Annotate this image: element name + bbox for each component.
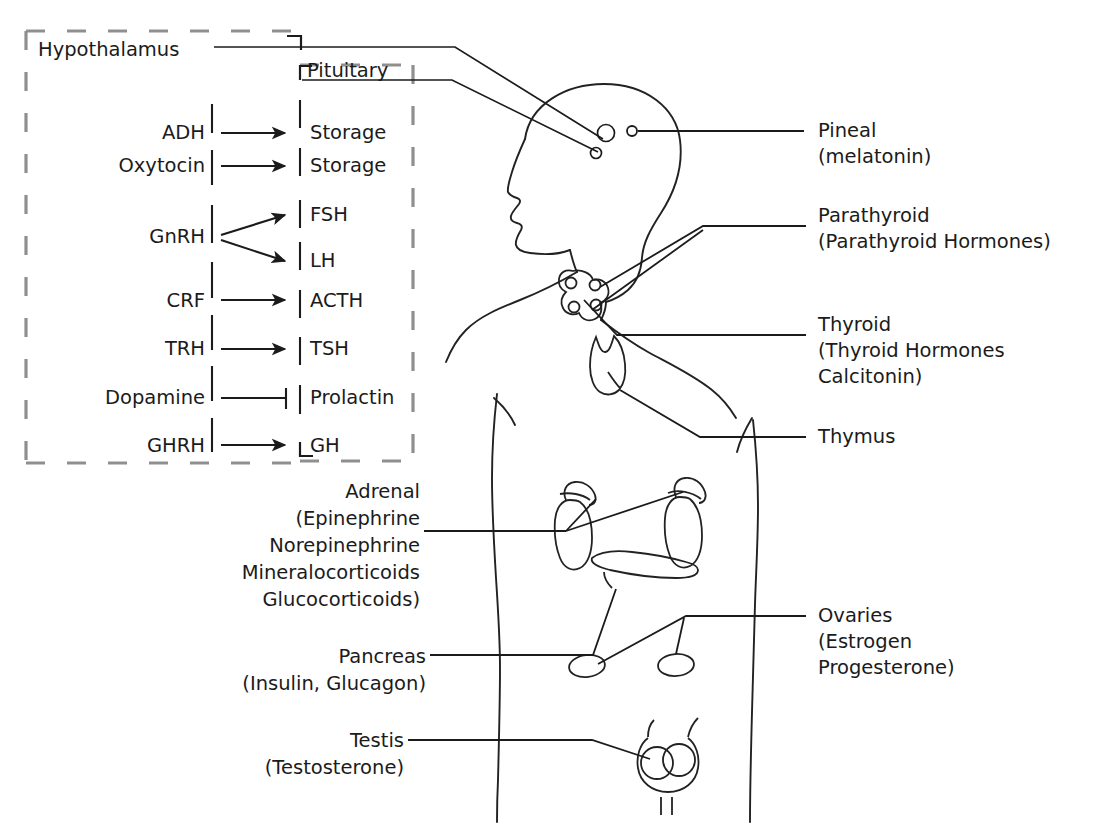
gland-label-adrenal: Adrenal [120, 479, 420, 505]
hormone-lh: LH [310, 248, 336, 274]
human-body-outline [446, 84, 758, 822]
gland-hormones-ovaries-line1: (Estrogen [818, 629, 912, 655]
leader-ovaries [598, 616, 806, 664]
arrow-gnrh-lh [221, 240, 285, 261]
gland-hormones-pineal: (melatonin) [818, 144, 931, 170]
hormone-acth: ACTH [310, 288, 363, 314]
thymus-gland [590, 336, 625, 394]
gland-label-testis: Testis [120, 728, 404, 754]
gland-hormones-adrenal-line4: Glucocorticoids) [120, 587, 420, 613]
pituitary-title: Pituitary [307, 58, 388, 84]
hypothalamus-title: Hypothalamus [38, 37, 179, 63]
hormone-gh: GH [310, 433, 340, 459]
gland-hormones-thyroid-line2: Calcitonin) [818, 364, 922, 390]
gland-hormones-adrenal-line1: (Epinephrine [120, 506, 420, 532]
endocrine-diagram-page: Hypothalamus Pituitary ADH Oxytocin GnRH… [0, 0, 1103, 825]
factor-crf: CRF [5, 288, 205, 314]
leader-thyroid [584, 300, 806, 335]
hormone-storage-adh: Storage [310, 120, 386, 146]
leader-adrenal [424, 492, 683, 531]
gland-label-thymus: Thymus [818, 424, 895, 450]
gland-label-pineal: Pineal [818, 118, 876, 144]
factor-oxytocin: Oxytocin [5, 153, 205, 179]
ovaries-glands [568, 653, 695, 679]
gland-hormones-adrenal-line3: Mineralocorticoids [120, 560, 420, 586]
hypothalamus-box-corners [287, 36, 301, 50]
gland-hormones-thyroid-line1: (Thyroid Hormones [818, 338, 1005, 364]
factor-adh: ADH [5, 120, 205, 146]
hormone-prolactin: Prolactin [310, 385, 394, 411]
kidneys-adrenals-pancreas [555, 478, 706, 588]
leader-parathyroid [592, 226, 806, 310]
factor-dopamine: Dopamine [5, 385, 205, 411]
gland-hormones-pancreas: (Insulin, Glucagon) [120, 671, 426, 697]
hormone-fsh: FSH [310, 202, 348, 228]
pathway-arrows [221, 133, 286, 445]
gland-hormones-ovaries-line2: Progesterone) [818, 655, 955, 681]
factor-gnrh: GnRH [5, 224, 205, 250]
leader-thymus [620, 390, 806, 437]
gland-hormones-testis: (Testosterone) [120, 755, 404, 781]
hormone-tsh: TSH [310, 336, 349, 362]
gland-label-pancreas: Pancreas [120, 644, 426, 670]
arrow-gnrh-fsh [221, 215, 285, 235]
leader-testis [408, 740, 650, 759]
arrow-dopamine-prolactin-inhibit [221, 388, 286, 409]
testes-glands [637, 718, 698, 815]
gland-label-ovaries: Ovaries [818, 603, 892, 629]
hormone-storage-oxytocin: Storage [310, 153, 386, 179]
gland-hormones-adrenal-line2: Norepinephrine [120, 533, 420, 559]
leader-pancreas [430, 589, 616, 655]
factor-ghrh: GHRH [5, 433, 205, 459]
leader-lines-left [408, 492, 683, 759]
leader-lines-right [584, 126, 806, 664]
gland-hormones-parathyroid: (Parathyroid Hormones) [818, 229, 1051, 255]
factor-trh: TRH [5, 336, 205, 362]
gland-label-thyroid: Thyroid [818, 312, 891, 338]
hypothalamus-to-brain-connector [214, 47, 615, 159]
gland-label-parathyroid: Parathyroid [818, 203, 930, 229]
leader-pineal [627, 126, 804, 136]
